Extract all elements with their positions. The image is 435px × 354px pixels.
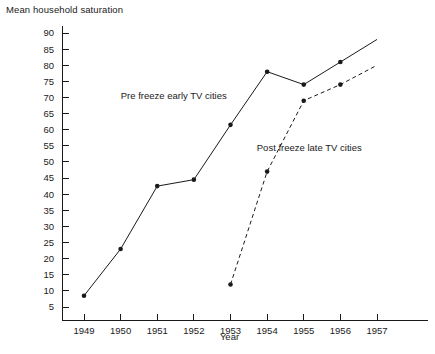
series-lines	[84, 39, 377, 295]
data-point-marker	[265, 69, 270, 74]
y-tick-label: 65	[43, 108, 54, 119]
data-point-marker	[228, 282, 233, 287]
data-point-marker	[228, 123, 233, 128]
data-point-marker	[192, 177, 197, 182]
series-label: Post freeze late TV cities	[257, 142, 362, 153]
axis-lines	[62, 26, 428, 320]
y-axis-ticks: 51015202530354045505560657075808590	[43, 27, 69, 312]
y-tick-label: 15	[43, 269, 54, 280]
data-point-marker	[338, 82, 343, 87]
y-tick-label: 45	[43, 172, 54, 183]
chart-container: Mean household saturation 51015202530354…	[0, 0, 435, 354]
series-line	[231, 65, 378, 284]
y-tick-label: 85	[43, 44, 54, 55]
x-axis-title: Year	[220, 331, 239, 342]
y-tick-label: 20	[43, 253, 54, 264]
y-tick-label: 75	[43, 76, 54, 87]
data-point-marker	[82, 293, 87, 298]
y-tick-label: 30	[43, 221, 54, 232]
chart-plot-area: 51015202530354045505560657075808590 1949…	[0, 0, 435, 354]
y-tick-label: 80	[43, 60, 54, 71]
data-point-marker	[118, 247, 123, 252]
y-tick-label: 90	[43, 27, 54, 38]
y-tick-label: 50	[43, 156, 54, 167]
data-point-marker	[155, 184, 160, 189]
data-point-marker	[338, 60, 343, 65]
y-tick-label: 10	[43, 285, 54, 296]
y-tick-label: 60	[43, 124, 54, 135]
y-tick-label: 40	[43, 189, 54, 200]
y-tick-label: 70	[43, 92, 54, 103]
series-annotations: Pre freeze early TV citiesPost freeze la…	[121, 90, 362, 153]
series-line	[84, 39, 377, 295]
data-point-marker	[301, 82, 306, 87]
data-point-marker	[301, 98, 306, 103]
data-point-marker	[265, 169, 270, 174]
y-tick-label: 55	[43, 140, 54, 151]
x-axis-title-wrap: Year	[0, 331, 435, 342]
series-label: Pre freeze early TV cities	[121, 90, 227, 101]
y-tick-label: 35	[43, 205, 54, 216]
y-tick-label: 5	[49, 301, 54, 312]
y-tick-label: 25	[43, 237, 54, 248]
